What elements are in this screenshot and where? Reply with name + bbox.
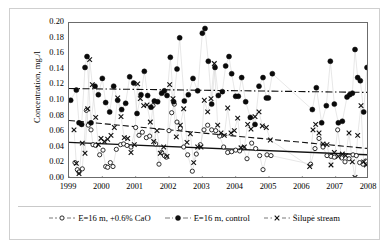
legend-item[interactable]: Šilupė stream — [264, 213, 340, 223]
legend-label: Šilupė stream — [293, 213, 340, 223]
series-connector-1 — [71, 28, 367, 124]
y-tick-label: 0.14 — [34, 65, 64, 73]
legend-marker-open-circle-icon — [49, 213, 75, 223]
series-markers-2 — [72, 57, 368, 178]
y-tick-label: 0.18 — [34, 34, 64, 42]
legend-label: E=16 m, +0.6% CaO — [78, 213, 150, 223]
plot-svg — [69, 23, 368, 178]
legend-item[interactable]: E=16 m, control — [165, 213, 250, 223]
legend-label: E=16 m, control — [194, 213, 250, 223]
series-markers-1 — [69, 26, 368, 127]
series-markers-0 — [73, 102, 368, 174]
series-connector-2 — [74, 60, 366, 178]
y-tick-label: 0.00 — [34, 174, 64, 182]
axis-tick-marks — [69, 176, 368, 178]
legend-marker-filled-circle-icon — [165, 213, 191, 223]
chart-legend: E=16 m, +0.6% CaOE=16 m, controlŠilupė s… — [18, 206, 371, 229]
y-tick-label: 0.10 — [34, 96, 64, 104]
legend-marker-cross-icon — [264, 213, 290, 223]
plot-area — [68, 22, 368, 178]
y-tick-label: 0.12 — [34, 80, 64, 88]
legend-item[interactable]: E=16 m, +0.6% CaO — [49, 213, 150, 223]
y-tick-label: 0.06 — [34, 127, 64, 135]
y-tick-label: 0.08 — [34, 112, 64, 120]
trendline-1 — [69, 89, 368, 93]
y-tick-label: 0.02 — [34, 158, 64, 166]
y-tick-label: 0.20 — [34, 18, 64, 26]
y-tick-label: 0.16 — [34, 49, 64, 57]
y-tick-label: 0.04 — [34, 143, 64, 151]
chart-figure: Concentration, mg./l 0.000.020.040.060.0… — [0, 0, 389, 248]
x-tick-label: 2008 — [348, 182, 388, 191]
